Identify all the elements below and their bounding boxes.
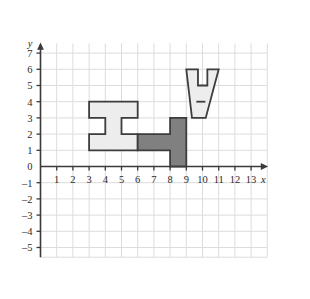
y-tick-label: –5	[21, 242, 33, 253]
x-tick-label: 1	[54, 174, 59, 185]
x-tick-label: 5	[119, 174, 124, 185]
x-tick-label: 9	[184, 174, 189, 185]
x-tick-label: 8	[167, 174, 172, 185]
y-axis-title: y	[27, 38, 33, 49]
coordinate-grid-figure: 1234567891011121376543210–1–2–3–4–5 xy	[0, 0, 310, 299]
y-tick-label: 6	[27, 64, 32, 75]
y-tick-label: –4	[21, 226, 33, 237]
y-tick-label: 4	[27, 97, 33, 108]
axis-titles: xy	[27, 38, 266, 184]
x-axis-title: x	[260, 174, 266, 185]
y-tick-label: 3	[27, 113, 32, 124]
y-tick-label: 2	[27, 129, 32, 140]
y-tick-label: 1	[27, 145, 32, 156]
y-tick-label: 5	[27, 80, 32, 91]
x-tick-label: 3	[86, 174, 91, 185]
y-tick-label: –2	[21, 194, 33, 205]
y-tick-label-zero: 0	[27, 161, 32, 172]
x-tick-label: 12	[230, 174, 241, 185]
x-tick-label: 6	[135, 174, 140, 185]
x-tick-label: 2	[70, 174, 75, 185]
i-shape-light	[89, 102, 138, 151]
x-tick-label: 13	[246, 174, 257, 185]
y-tick-label: 7	[27, 48, 32, 59]
x-tick-label: 4	[103, 174, 109, 185]
y-axis-arrowhead	[37, 43, 44, 50]
y-tick-label: –1	[21, 178, 33, 189]
y-tick-label: –3	[21, 210, 33, 221]
coordinate-plane-svg: 1234567891011121376543210–1–2–3–4–5 xy	[0, 0, 310, 299]
l-shape-dark	[138, 118, 187, 167]
x-tick-label: 10	[197, 174, 208, 185]
x-tick-label: 7	[151, 174, 156, 185]
x-tick-label: 11	[214, 174, 224, 185]
